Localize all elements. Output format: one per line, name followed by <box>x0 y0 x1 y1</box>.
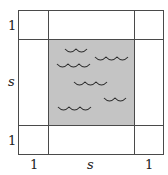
label-bottom-right: 1 <box>145 157 153 172</box>
pool-diagram: 1 s 1 1 s 1 <box>0 0 168 175</box>
label-left-bottom: 1 <box>8 133 16 148</box>
label-bottom-middle: s <box>87 157 94 172</box>
label-left-middle: s <box>8 74 15 89</box>
pool-region <box>49 40 135 126</box>
label-left-top: 1 <box>8 18 16 33</box>
label-bottom-left: 1 <box>30 157 38 172</box>
